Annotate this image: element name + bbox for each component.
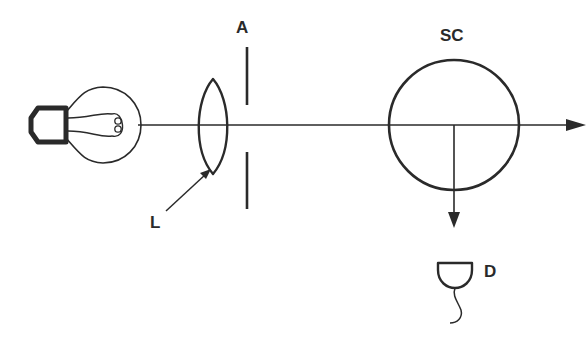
scattered-beam-arrow-icon — [448, 125, 460, 228]
axis-arrowhead-icon — [566, 119, 586, 131]
lens-icon — [199, 79, 228, 174]
aperture-label: A — [236, 18, 248, 37]
scattering-cell-label: SC — [440, 26, 464, 45]
lamp-icon — [31, 87, 141, 163]
lens-pointer-arrow-icon — [166, 169, 211, 211]
optical-diagram: L A SC D — [0, 0, 588, 344]
detector-icon — [438, 263, 472, 323]
detector-label: D — [484, 262, 496, 281]
lens-label: L — [150, 213, 160, 232]
